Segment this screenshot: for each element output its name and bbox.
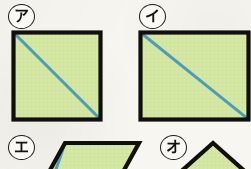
worksheet-page: ア イ: [0, 0, 251, 169]
figure-shape-i-rectangle: [138, 30, 251, 122]
figure-label-badge-i: イ: [139, 4, 166, 29]
figure-label-text-a: ア: [14, 9, 29, 24]
figure-label-badge-a: ア: [8, 4, 35, 29]
figure-label-badge-o: オ: [160, 135, 187, 160]
figure-label-text-i: イ: [145, 9, 160, 24]
figure-label-text-o: オ: [166, 140, 181, 155]
figure-label-text-e: エ: [14, 140, 29, 155]
figure-shape-a-square: [11, 30, 103, 122]
figure-label-badge-e: エ: [8, 135, 35, 160]
figure-shape-e-parallelogram: [42, 141, 142, 169]
